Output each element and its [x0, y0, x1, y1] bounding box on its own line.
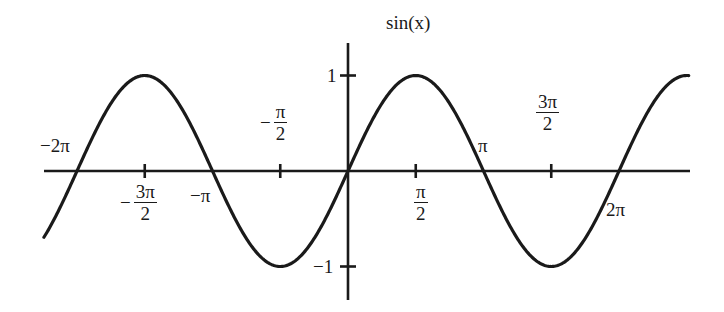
- denominator: 2: [543, 113, 553, 133]
- x-tick-label-pi-over-2: π2: [414, 182, 428, 223]
- annotation-minus-2pi: −2π: [40, 136, 70, 155]
- denominator: 2: [276, 123, 286, 143]
- numerator: 3π: [134, 182, 157, 203]
- numerator: 3π: [536, 92, 559, 113]
- numerator: π: [274, 102, 288, 123]
- annotation-pi: π: [478, 136, 488, 155]
- denominator: 2: [416, 203, 426, 223]
- annotation-2pi: 2π: [606, 200, 625, 219]
- x-tick-label-3pi-over-2: 3π2: [536, 92, 559, 133]
- chart-title: sin(x): [386, 13, 430, 32]
- annotation-minus-pi: −π: [190, 186, 210, 205]
- minus-sign: −: [120, 193, 131, 212]
- denominator: 2: [141, 203, 151, 223]
- x-tick-label-minus-3pi-over-2: − 3π2: [120, 182, 157, 223]
- numerator: π: [414, 182, 428, 203]
- y-tick-label-1: 1: [327, 66, 337, 85]
- sine-chart: [0, 0, 724, 312]
- x-tick-label-minus-pi-over-2: − π2: [260, 102, 287, 143]
- y-tick-label-minus-1: −1: [313, 257, 333, 276]
- minus-sign: −: [260, 113, 271, 132]
- axes: [44, 43, 690, 300]
